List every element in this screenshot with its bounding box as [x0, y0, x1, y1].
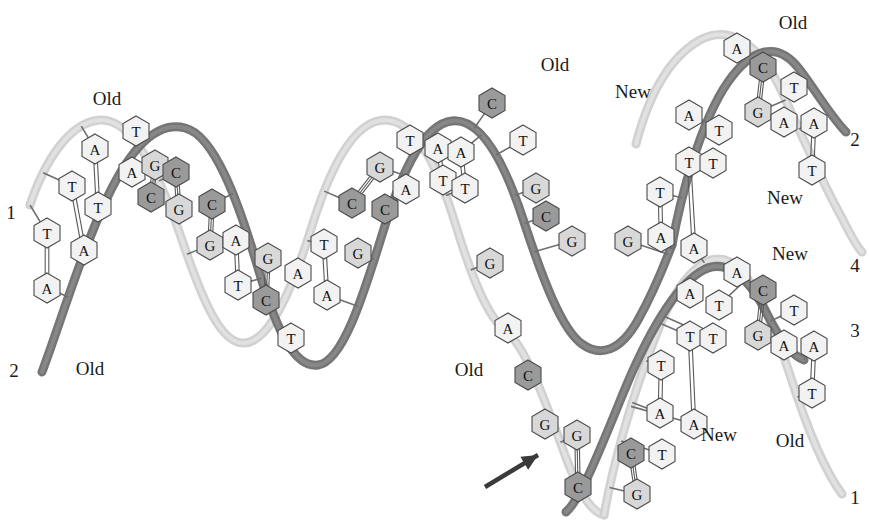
- base-pair-p03: [72, 197, 83, 238]
- base-letter: T: [708, 156, 717, 172]
- nucleotide-base-t-b49: T: [647, 177, 673, 207]
- base-letter: C: [171, 165, 181, 181]
- nucleotide-base-g-b38: G: [615, 226, 641, 256]
- base-letter: T: [93, 200, 102, 216]
- base-letter: T: [655, 185, 664, 201]
- base-pair-p17: [688, 174, 695, 236]
- annotation-new-upper-left: New: [615, 81, 651, 102]
- base-letter: A: [685, 286, 696, 302]
- base-letter: T: [807, 163, 816, 179]
- annotation-old-top-left: Old: [93, 88, 122, 109]
- base-letter: T: [518, 133, 527, 149]
- new-strand-light-upper-highlight: [636, 35, 862, 252]
- nucleotide-base-g-b27: G: [345, 238, 371, 268]
- base-letter: A: [293, 266, 304, 282]
- annotation-old-fork-middle: Old: [455, 359, 484, 380]
- base-letter: T: [405, 133, 414, 149]
- nucleotide-base-g-b57: G: [745, 97, 771, 127]
- nucleotide-base-t-b03: T: [59, 171, 85, 201]
- nucleotide-base-t-b21: T: [311, 229, 337, 259]
- base-letter: T: [708, 331, 717, 347]
- base-letter: T: [685, 329, 694, 345]
- dna-replication-figure: TATATATAGCCGCGATGCATTAGCACGTAATTCTGCGGGA…: [0, 0, 869, 526]
- base-letter: G: [375, 160, 386, 176]
- base-pair-p23: [811, 358, 816, 381]
- base-letter: C: [207, 197, 217, 213]
- base-letter: T: [131, 124, 140, 140]
- base-letter: C: [523, 368, 533, 384]
- nucleotide-base-g-b14: G: [197, 230, 223, 260]
- fork-arrow-layer: [485, 455, 538, 487]
- base-letter: A: [231, 233, 242, 249]
- strand-number-4-right: 4: [850, 255, 860, 276]
- base-letter: A: [433, 141, 444, 157]
- strand-number-3-right: 3: [850, 320, 860, 341]
- base-letter: A: [689, 241, 700, 257]
- annotation-old-lower-right: Old: [776, 430, 805, 451]
- base-pair-p01: [45, 245, 49, 276]
- base-letter: G: [263, 251, 274, 267]
- annotation-old-top-right: Old: [779, 12, 808, 33]
- base-letter: G: [531, 181, 542, 197]
- base-letter: C: [758, 60, 768, 76]
- base-letter: T: [319, 237, 328, 253]
- base-letter: A: [732, 41, 743, 57]
- base-letter: G: [540, 417, 551, 433]
- nucleotide-base-c-b24: C: [339, 188, 365, 218]
- nucleotide-base-g-b47: G: [624, 479, 650, 509]
- base-pair-p09: [323, 256, 328, 283]
- base-letter: T: [714, 123, 723, 139]
- base-letter: T: [233, 278, 242, 294]
- base-letter: C: [573, 480, 583, 496]
- base-letter: G: [572, 428, 583, 444]
- nucleotide-base-t-b53: T: [700, 148, 726, 178]
- nucleotide-base-t-b01: T: [34, 218, 60, 248]
- base-letter: T: [460, 181, 469, 197]
- base-letter: A: [732, 265, 743, 281]
- base-pair-p02: [94, 161, 99, 195]
- strand-number-2-left: 2: [9, 360, 19, 381]
- strand-number-1-lower-right: 1: [850, 487, 860, 508]
- base-letter: C: [758, 283, 768, 299]
- nucleotide-base-a-b62: A: [647, 398, 673, 428]
- base-letter: C: [347, 196, 357, 212]
- base-letter: T: [789, 303, 798, 319]
- base-stem-b33: [474, 114, 484, 129]
- base-letter: G: [205, 238, 216, 254]
- base-letter: G: [567, 234, 578, 250]
- base-letter: G: [353, 246, 364, 262]
- strand-number-1-left: 1: [6, 202, 16, 223]
- nucleotide-base-t-b64: T: [677, 321, 703, 351]
- nucleotide-base-g-b35: G: [523, 173, 549, 203]
- nucleotide-base-t-b68: T: [706, 290, 732, 320]
- nucleotide-base-g-b23: G: [367, 152, 393, 182]
- base-letter: A: [655, 406, 666, 422]
- base-letter: T: [67, 179, 76, 195]
- nucleotide-base-c-b70: C: [750, 275, 776, 305]
- base-letter: T: [714, 298, 723, 314]
- base-letter: A: [79, 243, 90, 259]
- base-letter: A: [656, 230, 667, 246]
- base-letter: A: [809, 116, 820, 132]
- nucleotide-base-t-b46: T: [649, 439, 675, 469]
- base-letter: G: [632, 487, 643, 503]
- base-letter: A: [779, 338, 790, 354]
- base-letter: A: [90, 142, 101, 158]
- base-letter: A: [456, 145, 467, 161]
- base-letter: C: [380, 202, 390, 218]
- annotation-new-lower-upper: New: [772, 243, 808, 264]
- base-pair-p10: [358, 175, 375, 195]
- base-letter: A: [503, 321, 514, 337]
- strand-number-2-upper-right: 2: [850, 129, 860, 150]
- base-letter: A: [809, 339, 820, 355]
- annotation-old-bottom-left: Old: [76, 358, 105, 379]
- base-letter: A: [779, 115, 790, 131]
- replication-fork-arrow: [485, 455, 538, 487]
- base-letter: G: [174, 202, 185, 218]
- base-letter: T: [789, 80, 798, 96]
- nucleotide-base-t-b72: T: [781, 295, 807, 325]
- base-letter: T: [42, 226, 51, 242]
- base-letter: G: [753, 105, 764, 121]
- base-stem-b37: [534, 245, 559, 252]
- nucleotide-base-c-b33: C: [479, 88, 505, 118]
